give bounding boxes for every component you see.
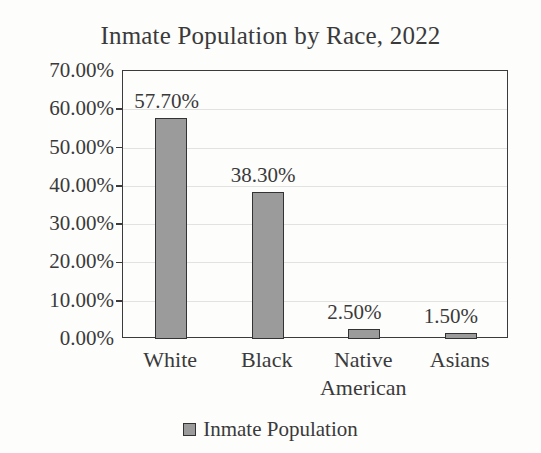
y-axis-tick-label: 60.00%	[2, 96, 114, 121]
x-axis-category-label: Native American	[315, 346, 412, 402]
x-axis-category-label: Asians	[412, 346, 509, 374]
bar-chart: Inmate Population by Race, 2022 70.00%60…	[0, 0, 541, 453]
y-axis: 70.00%60.00%50.00%40.00%30.00%20.00%10.0…	[0, 70, 114, 338]
y-axis-tick-label: 70.00%	[2, 58, 114, 83]
x-axis-category-label: White	[122, 346, 219, 374]
chart-title: Inmate Population by Race, 2022	[0, 22, 541, 50]
x-axis-category-label: Black	[219, 346, 316, 374]
y-axis-tick-mark	[116, 185, 123, 187]
y-axis-tick-mark	[116, 147, 123, 149]
y-axis-tick-mark	[116, 262, 123, 264]
y-axis-tick-mark	[116, 223, 123, 225]
y-axis-tick-label: 50.00%	[2, 134, 114, 159]
bar	[155, 118, 187, 339]
y-axis-tick-mark	[116, 108, 123, 110]
y-axis-tick-label: 10.00%	[2, 287, 114, 312]
chart-legend: Inmate Population	[0, 417, 541, 442]
y-axis-tick-mark	[116, 300, 123, 302]
bar-value-label: 1.50%	[424, 304, 478, 329]
plot-area: 57.70%38.30%2.50%1.50%	[122, 70, 508, 338]
bar	[445, 333, 477, 339]
y-axis-tick-label: 20.00%	[2, 249, 114, 274]
bar	[252, 192, 284, 339]
bar-value-label: 57.70%	[134, 89, 199, 114]
bar-value-label: 2.50%	[327, 300, 381, 325]
y-axis-tick-label: 0.00%	[2, 326, 114, 351]
bar-value-label: 38.30%	[231, 163, 296, 188]
legend-label: Inmate Population	[203, 417, 358, 442]
legend-swatch-icon	[183, 423, 196, 436]
bar	[348, 329, 380, 339]
y-axis-tick-label: 30.00%	[2, 211, 114, 236]
y-axis-tick-label: 40.00%	[2, 172, 114, 197]
x-axis: WhiteBlackNative AmericanAsians	[122, 346, 508, 406]
